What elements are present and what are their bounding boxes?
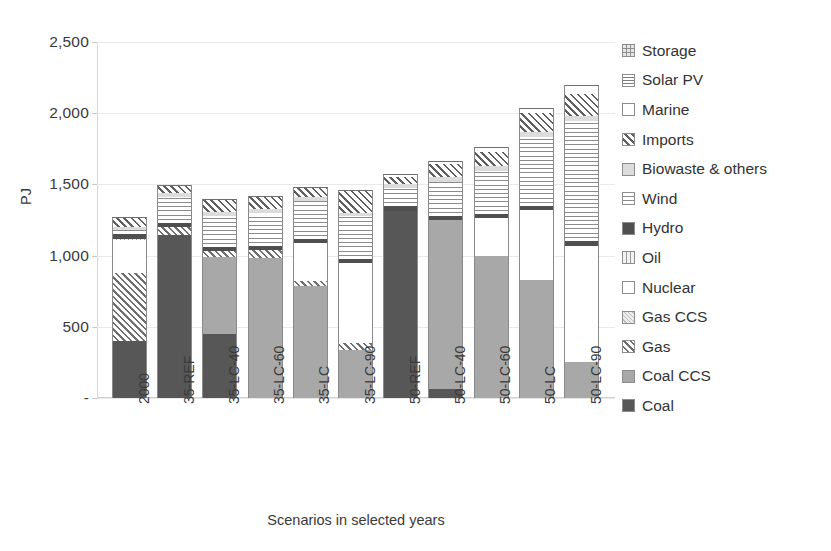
bar-segment-imports — [293, 187, 328, 198]
bar-segment-marine — [383, 174, 418, 177]
legend-swatch-icon — [622, 133, 635, 146]
bar-segment-nuclear — [293, 243, 328, 281]
x-tick-label: 2000 — [136, 373, 152, 404]
legend-swatch-icon — [622, 74, 635, 87]
legend-item-coal[interactable]: Coal — [622, 391, 827, 421]
bar-segment-hydro — [248, 246, 283, 250]
legend-swatch-icon — [622, 251, 635, 264]
bar-segment-nuclear — [519, 210, 554, 280]
bar-segment-biowaste — [474, 166, 509, 171]
bar-segment-biowaste — [564, 116, 599, 121]
legend-item-marine[interactable]: Marine — [622, 95, 827, 125]
bar-segment-biowaste — [202, 212, 237, 216]
gridline — [97, 42, 615, 43]
bar-segment-hydro — [202, 247, 237, 251]
bar-segment-wind — [338, 216, 373, 259]
bar-stack[interactable] — [112, 217, 147, 398]
y-tick-label: 2,000 — [0, 104, 89, 122]
bar-segment-nuclear — [338, 263, 373, 343]
bar-segment-imports — [112, 217, 147, 227]
x-tick-label: 35-REF — [181, 356, 197, 404]
legend-swatch-icon — [622, 311, 635, 324]
legend-swatch-icon — [622, 103, 635, 116]
legend-item-biowaste[interactable]: Biowaste & others — [622, 154, 827, 184]
bar-segment-wind — [564, 121, 599, 241]
bar-stack[interactable] — [519, 108, 554, 398]
y-tick-mark — [92, 184, 97, 185]
bar-segment-imports — [383, 177, 418, 184]
legend-item-label: Imports — [642, 131, 694, 149]
legend-item-nuclear[interactable]: Nuclear — [622, 273, 827, 303]
bar-segment-hydro — [112, 234, 147, 238]
y-tick-label: 2,500 — [0, 33, 89, 51]
plot-area — [97, 42, 615, 398]
legend-item-wind[interactable]: Wind — [622, 184, 827, 214]
bar-segment-wind — [474, 171, 509, 214]
y-tick-mark — [92, 398, 97, 399]
y-tick-label: - — [0, 389, 89, 407]
bar-segment-biowaste — [293, 197, 328, 201]
x-tick-label: 35-LC-40 — [226, 346, 242, 404]
legend-item-storage[interactable]: Storage — [622, 36, 827, 66]
legend-item-label: Solar PV — [642, 71, 703, 89]
legend-item-label: Biowaste & others — [642, 160, 767, 178]
bar-segment-coalccs — [202, 257, 237, 334]
bar-segment-hydro — [474, 214, 509, 218]
legend-swatch-icon — [622, 399, 635, 412]
legend-item-label: Oil — [642, 249, 661, 267]
bar-segment-hydro — [519, 206, 554, 210]
legend-item-label: Gas CCS — [642, 308, 707, 326]
gridline — [97, 398, 615, 399]
bar-segment-wind — [157, 197, 192, 223]
bar-segment-imports — [519, 113, 554, 133]
legend-item-gasccs[interactable]: Gas CCS — [622, 302, 827, 332]
bar-segment-biowaste — [519, 132, 554, 137]
legend-item-imports[interactable]: Imports — [622, 125, 827, 155]
bar-segment-hydro — [383, 206, 418, 210]
legend-item-label: Coal — [642, 397, 674, 415]
legend-item-label: Storage — [642, 42, 696, 60]
y-axis-line — [97, 42, 98, 398]
legend-item-label: Marine — [642, 101, 689, 119]
bar-segment-imports — [564, 94, 599, 116]
y-tick-label: 1,000 — [0, 247, 89, 265]
x-tick-label: 50-LC-90 — [588, 346, 604, 404]
legend-item-label: Coal CCS — [642, 367, 711, 385]
legend-item-oil[interactable]: Oil — [622, 243, 827, 273]
legend-swatch-icon — [622, 44, 635, 57]
bar-segment-marine — [519, 108, 554, 112]
bar-segment-imports — [248, 196, 283, 210]
y-tick-label: 1,500 — [0, 175, 89, 193]
legend-item-coalccs[interactable]: Coal CCS — [622, 362, 827, 392]
bar-segment-gas — [202, 251, 237, 257]
legend-item-label: Gas — [642, 338, 670, 356]
legend-item-hydro[interactable]: Hydro — [622, 214, 827, 244]
bar-segment-wind — [112, 230, 147, 234]
y-tick-mark — [92, 256, 97, 257]
legend-swatch-icon — [622, 281, 635, 294]
bar-segment-gas — [112, 273, 147, 341]
bar-segment-marine — [428, 161, 463, 164]
x-tick-label: 50-LC — [542, 366, 558, 404]
bar-segment-hydro — [338, 259, 373, 263]
bar-segment-imports — [202, 199, 237, 212]
bar-segment-hydro — [293, 239, 328, 243]
bar-segment-biowaste — [157, 193, 192, 197]
x-tick-label: 35-LC-90 — [362, 346, 378, 404]
bar-segment-imports — [157, 185, 192, 193]
bar-segment-biowaste — [338, 213, 373, 217]
legend-item-solarpv[interactable]: Solar PV — [622, 66, 827, 96]
legend-item-gas[interactable]: Gas — [622, 332, 827, 362]
y-tick-mark — [92, 42, 97, 43]
bar-segment-oil — [112, 239, 147, 240]
y-tick-label: 500 — [0, 318, 89, 336]
y-tick-mark — [92, 327, 97, 328]
x-tick-label: 50-LC-60 — [497, 346, 513, 404]
y-tick-mark — [92, 113, 97, 114]
x-tick-label: 50-LC-40 — [452, 346, 468, 404]
bar-segment-biowaste — [112, 227, 147, 230]
chart-figure: PJ Scenarios in selected years -5001,000… — [0, 0, 831, 551]
bar-segment-marine — [564, 85, 599, 94]
bar-segment-wind — [383, 188, 418, 207]
bar-segment-biowaste — [383, 184, 418, 188]
